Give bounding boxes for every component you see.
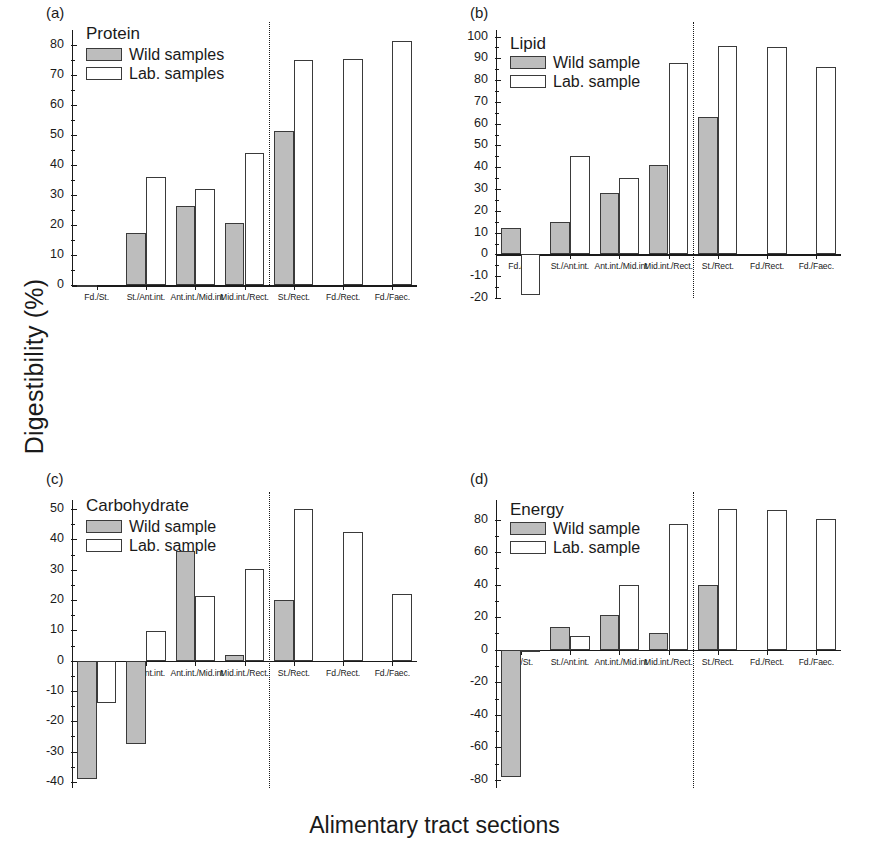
y-tick-label: -80 bbox=[454, 772, 488, 786]
bar-lab bbox=[570, 636, 590, 650]
y-tick-label: 80 bbox=[454, 512, 488, 526]
y-tick bbox=[495, 780, 501, 781]
x-tick-label: St./Ant.int. bbox=[545, 657, 594, 667]
y-tick-minor bbox=[495, 731, 499, 732]
y-tick bbox=[495, 552, 501, 553]
x-tick bbox=[767, 650, 768, 655]
x-tick-label: Ant.int./Mid.int bbox=[595, 657, 644, 667]
bar-wild bbox=[698, 585, 718, 649]
bar-lab bbox=[718, 509, 738, 649]
x-tick-label: St./Rect. bbox=[693, 657, 742, 667]
bar-wild bbox=[649, 633, 669, 650]
y-tick-minor bbox=[495, 764, 499, 765]
y-tick-label: 0 bbox=[454, 642, 488, 656]
x-tick bbox=[816, 650, 817, 655]
x-tick bbox=[669, 650, 670, 655]
y-tick-label: -20 bbox=[454, 674, 488, 688]
bar-lab bbox=[619, 585, 639, 650]
x-tick-label: Fd./Rect. bbox=[742, 657, 791, 667]
y-tick bbox=[495, 617, 501, 618]
y-axis-line bbox=[496, 500, 497, 788]
x-tick bbox=[570, 650, 571, 655]
y-tick-label: 20 bbox=[454, 609, 488, 623]
x-tick bbox=[718, 650, 719, 655]
figure-digestibility: Digestibility (%) Alimentary tract secti… bbox=[0, 0, 869, 854]
x-tick-label: Fd./Faec. bbox=[792, 657, 841, 667]
x-tick bbox=[619, 650, 620, 655]
y-tick-minor bbox=[495, 536, 499, 537]
panel-d-energy: (d)EnergyWild sampleLab. sample-80-60-40… bbox=[0, 0, 869, 854]
y-tick-label: -40 bbox=[454, 707, 488, 721]
panel-tag-d: (d) bbox=[470, 470, 488, 487]
y-tick-label: 60 bbox=[454, 544, 488, 558]
plot-area-d: -80-60-40-20020406080Fd./St.St./Ant.int.… bbox=[496, 500, 841, 788]
y-tick-label: 40 bbox=[454, 577, 488, 591]
y-tick-minor bbox=[495, 633, 499, 634]
x-tick-label: Mid.int./Rect. bbox=[644, 657, 693, 667]
bar-wild bbox=[550, 627, 570, 650]
bar-lab bbox=[816, 519, 836, 650]
y-tick bbox=[495, 585, 501, 586]
y-tick-minor bbox=[495, 699, 499, 700]
y-tick-minor bbox=[495, 568, 499, 569]
y-tick-label: -60 bbox=[454, 739, 488, 753]
bar-wild bbox=[501, 650, 521, 777]
bar-lab bbox=[767, 510, 787, 650]
y-tick bbox=[495, 520, 501, 521]
bar-wild bbox=[600, 615, 620, 650]
bar-lab bbox=[669, 524, 689, 650]
bar-lab bbox=[521, 650, 541, 652]
section-divider bbox=[693, 492, 694, 788]
y-tick-minor bbox=[495, 601, 499, 602]
